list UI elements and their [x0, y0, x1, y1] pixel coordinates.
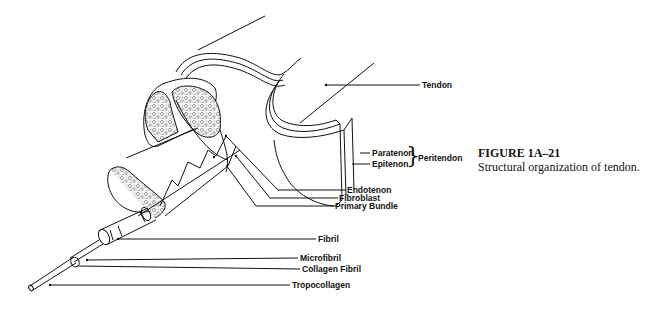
label-tendon: Tendon — [422, 80, 452, 90]
figure-caption-text: Structural organization of tendon. — [478, 160, 640, 174]
leader-microfibril — [87, 258, 298, 260]
leader-primary-bundle — [226, 165, 334, 206]
label-epitenon: Epitenon — [372, 159, 408, 169]
label-fibril: Fibril — [318, 234, 339, 244]
figure-title: FIGURE 1A–21 — [478, 146, 640, 160]
label-collagen-fibril: Collagen Fibril — [302, 264, 361, 274]
label-microfibril: Microfibril — [300, 253, 341, 263]
tendon-top-edge — [198, 16, 265, 50]
label-peritendon: Peritendon — [418, 153, 462, 163]
figure-caption: FIGURE 1A–21 Structural organization of … — [478, 146, 640, 174]
label-tropocollagen: Tropocollagen — [292, 280, 350, 290]
leader-collagen-fibril — [79, 266, 300, 269]
leader-endotenon — [226, 136, 346, 190]
label-primary-bundle: Primary Bundle — [335, 201, 398, 211]
